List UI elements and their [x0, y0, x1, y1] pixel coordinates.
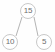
- tree-node-right-child[interactable]: 5: [36, 34, 52, 50]
- binary-tree-diagram: 15 10 5: [0, 0, 55, 52]
- tree-node-left-child[interactable]: 10: [2, 34, 18, 50]
- tree-node-left-child-label: 10: [6, 38, 14, 46]
- edge-root-to-left: [16, 17, 22, 36]
- tree-node-root[interactable]: 15: [20, 3, 36, 19]
- tree-node-right-child-label: 5: [42, 38, 46, 46]
- tree-node-root-label: 15: [24, 7, 32, 15]
- edge-root-to-right: [34, 17, 38, 36]
